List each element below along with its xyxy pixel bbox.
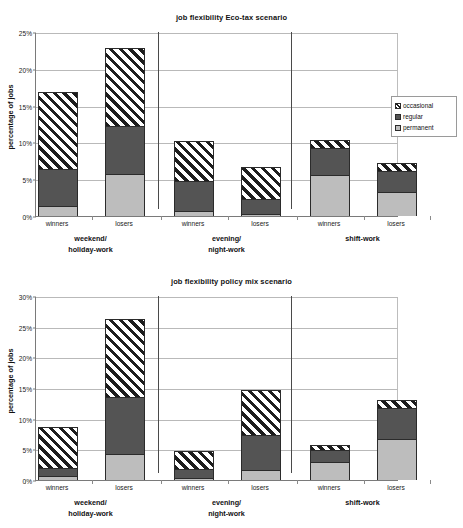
legend-label: permanent [403, 124, 434, 131]
bar-segment-occasional[interactable] [174, 141, 214, 181]
y-axis-tick-mark [33, 297, 36, 298]
y-axis-label: percentage of jobs [6, 62, 20, 172]
bar-segment-regular[interactable] [105, 126, 145, 175]
bar-segment-permanent[interactable] [310, 175, 350, 216]
bar-segment-regular[interactable] [105, 397, 145, 454]
chart-policy-mix: job flexibility policy mix scenario perc… [0, 264, 463, 528]
group-label-line1: shift-work [345, 234, 379, 245]
stacked-bar[interactable] [377, 163, 417, 216]
bar-segment-permanent[interactable] [241, 214, 281, 216]
bar-segment-regular[interactable] [38, 468, 78, 476]
bar-segment-permanent[interactable] [38, 206, 78, 216]
x-axis-group-label: shift-work [345, 498, 379, 509]
legend-item-permanent[interactable]: permanent [395, 122, 454, 133]
group-label-line2: holiday-work [68, 245, 112, 256]
figure-page: job flexibility Eco-tax scenario percent… [0, 0, 463, 528]
bar-segment-occasional[interactable] [377, 163, 417, 171]
y-axis-tick-label: 15% [19, 103, 32, 110]
y-axis-tick-label: 5% [22, 177, 32, 184]
x-axis-tick-mark [430, 216, 431, 220]
bar-segment-regular[interactable] [241, 435, 281, 469]
group-separator [158, 32, 159, 209]
legend: occasionalregularpermanent [391, 96, 457, 137]
bar-segment-permanent[interactable] [105, 454, 145, 480]
y-axis-tick-label: 5% [22, 447, 32, 454]
y-axis-tick-label: 25% [19, 30, 32, 37]
y-axis-tick-mark [33, 450, 36, 451]
y-axis-tick-label: 30% [19, 294, 32, 301]
x-axis-tick-mark [430, 480, 431, 484]
x-axis-group-labels: weekend/holiday-workevening/night-worksh… [35, 234, 398, 262]
stacked-bar[interactable] [174, 141, 214, 216]
bar-segment-regular[interactable] [38, 169, 78, 206]
y-axis-tick-mark [33, 180, 36, 181]
group-label-line1: evening/ [208, 498, 245, 509]
stacked-bar[interactable] [105, 48, 145, 216]
y-axis-tick-label: 25% [19, 324, 32, 331]
stacked-bar[interactable] [38, 92, 78, 216]
bar-segment-regular[interactable] [174, 181, 214, 210]
y-axis-tick-mark [33, 69, 36, 70]
bar-segment-permanent[interactable] [310, 462, 350, 480]
bar-segment-occasional[interactable] [377, 400, 417, 409]
stacked-bar[interactable] [174, 451, 214, 480]
chart-eco-tax: job flexibility Eco-tax scenario percent… [0, 0, 463, 264]
group-label-line2: night-work [208, 509, 245, 520]
stacked-bar[interactable] [310, 445, 350, 480]
x-axis-category-label: losers [251, 220, 269, 227]
bar-segment-occasional[interactable] [241, 390, 281, 435]
bar-segment-regular[interactable] [310, 450, 350, 462]
y-axis-tick-label: 10% [19, 140, 32, 147]
gridline [36, 328, 398, 329]
bar-segment-occasional[interactable] [310, 445, 350, 450]
bar-segment-occasional[interactable] [241, 167, 281, 199]
bar-segment-occasional[interactable] [38, 427, 78, 469]
stacked-bar[interactable] [241, 167, 281, 216]
bar-segment-occasional[interactable] [105, 48, 145, 125]
x-axis-category-label: losers [251, 484, 269, 491]
y-axis-tick-mark [33, 33, 36, 34]
group-label-line1: weekend/ [68, 498, 112, 509]
x-axis-category-label: losers [115, 220, 133, 227]
bar-segment-regular[interactable] [377, 408, 417, 439]
legend-label: occasional [403, 102, 433, 109]
stacked-bar[interactable] [38, 427, 78, 480]
bar-segment-permanent[interactable] [377, 192, 417, 216]
bar-segment-occasional[interactable] [174, 451, 214, 469]
bar-segment-regular[interactable] [310, 148, 350, 175]
bar-segment-permanent[interactable] [377, 439, 417, 480]
stacked-bar[interactable] [310, 140, 350, 216]
stacked-bar[interactable] [241, 390, 281, 480]
bar-segment-permanent[interactable] [38, 476, 78, 480]
bar-segment-occasional[interactable] [38, 92, 78, 169]
dark-gray-swatch [395, 114, 401, 120]
bar-segment-permanent[interactable] [105, 174, 145, 216]
x-axis-category-label: losers [387, 484, 405, 491]
x-axis-category-labels: winnersloserswinnersloserswinnerslosers [35, 484, 398, 498]
y-axis-tick-mark [33, 217, 36, 218]
bar-segment-regular[interactable] [241, 199, 281, 214]
bar-segment-regular[interactable] [174, 469, 214, 478]
stacked-bar[interactable] [377, 400, 417, 480]
x-axis-tick-mark [25, 216, 26, 220]
bar-segment-permanent[interactable] [174, 211, 214, 216]
bar-segment-permanent[interactable] [174, 478, 214, 480]
bar-segment-regular[interactable] [377, 171, 417, 192]
gridline [36, 297, 398, 298]
group-label-line1: weekend/ [68, 234, 112, 245]
x-axis-group-label: weekend/holiday-work [68, 234, 112, 255]
x-axis-category-label: winners [182, 220, 205, 227]
stacked-bar[interactable] [105, 319, 145, 480]
y-axis-tick-mark [33, 106, 36, 107]
group-label-line2: night-work [208, 245, 245, 256]
legend-item-regular[interactable]: regular [395, 111, 454, 122]
legend-item-occasional[interactable]: occasional [395, 100, 454, 111]
bar-segment-occasional[interactable] [310, 140, 350, 147]
bar-segment-permanent[interactable] [241, 470, 281, 480]
bar-segment-occasional[interactable] [105, 319, 145, 396]
x-axis-category-labels: winnersloserswinnersloserswinnerslosers [35, 220, 398, 234]
gridline [36, 420, 398, 421]
x-axis-group-labels: weekend/holiday-workevening/night-worksh… [35, 498, 398, 526]
legend-label: regular [403, 113, 423, 120]
y-axis-tick-mark [33, 358, 36, 359]
